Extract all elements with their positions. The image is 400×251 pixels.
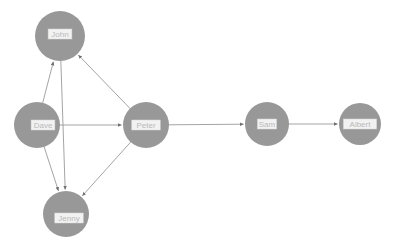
graph-edge-peter-to-jenny[interactable]: [82, 135, 136, 196]
graph-canvas-container: JohnDavePeterJennySamAlbert: [0, 0, 400, 251]
node-label-albert: Albert: [343, 119, 376, 129]
node-label-peter: Peter: [132, 120, 161, 130]
node-label-sam: Sam: [257, 119, 276, 129]
label-layer: JohnDavePeterJennySamAlbert: [31, 29, 377, 223]
node-label-text: Peter: [136, 121, 155, 130]
network-graph[interactable]: JohnDavePeterJennySamAlbert: [0, 0, 400, 251]
graph-edge-peter-to-john[interactable]: [78, 55, 136, 115]
node-label-john: John: [48, 29, 72, 39]
graph-edge-peter-to-sam[interactable]: [160, 124, 244, 125]
node-label-dave: Dave: [31, 120, 55, 130]
node-label-text: Albert: [350, 120, 372, 129]
node-label-text: Sam: [259, 120, 276, 129]
node-label-jenny: Jenny: [55, 213, 84, 223]
node-label-text: Jenny: [58, 214, 79, 223]
node-label-text: Dave: [34, 121, 53, 130]
graph-edge-john-to-jenny[interactable]: [61, 51, 66, 190]
node-label-text: John: [51, 30, 68, 39]
edge-layer: [40, 51, 337, 196]
